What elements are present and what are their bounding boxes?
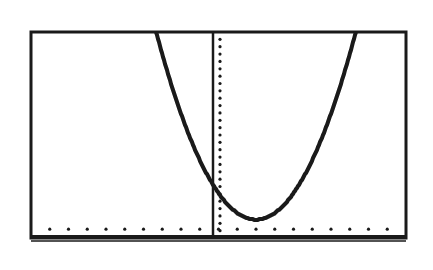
x-tick [367, 228, 370, 231]
y-tick [218, 229, 221, 232]
y-tick [218, 207, 221, 210]
y-tick [218, 214, 221, 217]
x-tick [348, 228, 351, 231]
y-tick [218, 200, 221, 203]
calculator-graph-screen [0, 0, 433, 270]
x-tick [329, 228, 332, 231]
y-tick [218, 163, 221, 166]
y-tick [218, 89, 221, 92]
x-tick [86, 228, 89, 231]
y-axis-ticks [218, 38, 221, 232]
y-tick [218, 75, 221, 78]
parabola-curve [156, 32, 356, 220]
x-tick [161, 228, 164, 231]
x-tick [123, 228, 126, 231]
y-tick [218, 45, 221, 48]
x-tick [273, 228, 276, 231]
x-tick [142, 228, 145, 231]
y-tick [218, 222, 221, 225]
y-tick [218, 52, 221, 55]
x-tick [179, 228, 182, 231]
y-tick [218, 111, 221, 114]
x-tick [311, 228, 314, 231]
y-tick [218, 126, 221, 129]
y-tick [218, 170, 221, 173]
y-tick [218, 185, 221, 188]
y-tick [218, 155, 221, 158]
x-tick [67, 228, 70, 231]
x-tick [198, 228, 201, 231]
y-tick [218, 148, 221, 151]
x-tick [254, 228, 257, 231]
y-tick [218, 67, 221, 70]
x-tick [292, 228, 295, 231]
x-tick [236, 228, 239, 231]
y-tick [218, 60, 221, 63]
x-tick [386, 228, 389, 231]
y-tick [218, 38, 221, 41]
y-tick [218, 141, 221, 144]
y-tick [218, 104, 221, 107]
y-tick [218, 133, 221, 136]
y-tick [218, 97, 221, 100]
y-tick [218, 178, 221, 181]
y-tick [218, 82, 221, 85]
x-tick [104, 228, 107, 231]
y-tick [218, 119, 221, 122]
x-tick [48, 228, 51, 231]
